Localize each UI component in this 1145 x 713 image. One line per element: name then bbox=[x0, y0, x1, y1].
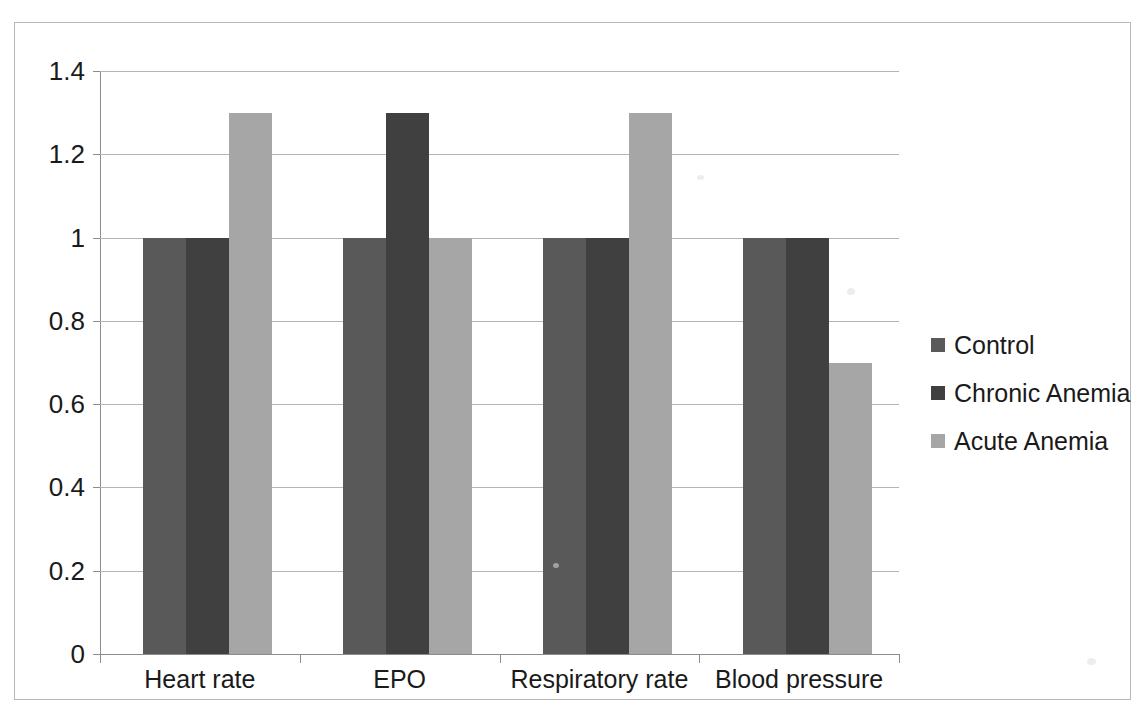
y-axis-tick-label: 1.2 bbox=[21, 141, 85, 167]
plot-area bbox=[100, 71, 899, 654]
y-axis-tick-mark bbox=[93, 654, 100, 655]
y-axis-tick-mark bbox=[93, 571, 100, 572]
y-axis-tick-label: 0.4 bbox=[21, 474, 85, 500]
y-axis-tick-mark bbox=[93, 238, 100, 239]
legend-item[interactable]: Chronic Anemia bbox=[931, 369, 1131, 417]
legend-label: Chronic Anemia bbox=[954, 381, 1130, 406]
legend-label: Control bbox=[954, 333, 1035, 358]
scan-speckle bbox=[847, 288, 855, 295]
legend-swatch-icon bbox=[931, 434, 945, 448]
x-axis-category-label: EPO bbox=[300, 666, 500, 694]
bar bbox=[829, 363, 872, 655]
y-axis-tick-label: 0 bbox=[21, 641, 85, 667]
legend-swatch-icon bbox=[931, 338, 945, 352]
legend-swatch-icon bbox=[931, 386, 945, 400]
bar bbox=[586, 238, 629, 654]
x-axis-tick-mark bbox=[699, 654, 700, 663]
y-axis-tick-mark bbox=[93, 71, 100, 72]
x-axis-tick-mark bbox=[899, 654, 900, 663]
legend-label: Acute Anemia bbox=[954, 429, 1108, 454]
bar bbox=[143, 238, 186, 654]
x-axis-tick-mark bbox=[100, 654, 101, 663]
x-axis-tick-mark bbox=[300, 654, 301, 663]
y-axis-tick-labels: 00.20.40.60.811.21.4 bbox=[15, 23, 85, 713]
y-axis-tick-label: 0.6 bbox=[21, 391, 85, 417]
y-axis-tick-mark bbox=[93, 321, 100, 322]
bar bbox=[229, 113, 272, 654]
y-axis-tick-label: 0.8 bbox=[21, 308, 85, 334]
bar bbox=[743, 238, 786, 654]
y-axis-tick-label: 1.4 bbox=[21, 58, 85, 84]
x-axis-category-label: Heart rate bbox=[100, 666, 300, 694]
bar bbox=[543, 238, 586, 654]
bar bbox=[786, 238, 829, 654]
scan-speckle bbox=[553, 563, 559, 568]
x-axis-category-label: Respiratory rate bbox=[500, 666, 700, 694]
x-axis-category-label: Blood pressure bbox=[699, 666, 899, 694]
bar bbox=[629, 113, 672, 654]
x-axis-tick-mark bbox=[500, 654, 501, 663]
scan-speckle bbox=[697, 175, 704, 180]
y-axis-tick-mark bbox=[93, 154, 100, 155]
bar bbox=[186, 238, 229, 654]
bar bbox=[429, 238, 472, 654]
y-axis-tick-label: 1 bbox=[21, 225, 85, 251]
legend-item[interactable]: Control bbox=[931, 321, 1131, 369]
bar-series-container bbox=[100, 71, 899, 654]
bar bbox=[343, 238, 386, 654]
legend-item[interactable]: Acute Anemia bbox=[931, 417, 1131, 465]
bar bbox=[386, 113, 429, 654]
chart-frame: 00.20.40.60.811.21.4 Heart rateEPORespir… bbox=[14, 22, 1131, 700]
y-axis-tick-mark bbox=[93, 487, 100, 488]
y-axis-tick-mark bbox=[93, 404, 100, 405]
scan-speckle bbox=[1087, 658, 1096, 665]
y-axis-tick-label: 0.2 bbox=[21, 558, 85, 584]
chart-legend: ControlChronic AnemiaAcute Anemia bbox=[931, 321, 1131, 465]
